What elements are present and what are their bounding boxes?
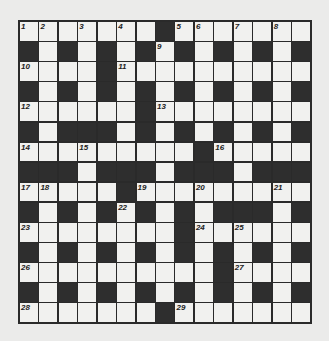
answer-cell[interactable]: 15 [78, 143, 96, 162]
answer-cell[interactable]: 27 [234, 263, 252, 282]
answer-cell[interactable] [39, 102, 57, 121]
answer-cell[interactable]: 29 [175, 303, 193, 322]
answer-cell[interactable] [273, 82, 291, 101]
answer-cell[interactable] [175, 143, 193, 162]
answer-cell[interactable] [292, 102, 310, 121]
answer-cell[interactable] [273, 263, 291, 282]
answer-cell[interactable] [292, 62, 310, 81]
answer-cell[interactable]: 21 [273, 183, 291, 202]
answer-cell[interactable] [175, 183, 193, 202]
answer-cell[interactable]: 3 [78, 22, 96, 41]
answer-cell[interactable]: 17 [20, 183, 38, 202]
answer-cell[interactable] [273, 243, 291, 262]
answer-cell[interactable] [137, 223, 155, 242]
answer-cell[interactable] [175, 102, 193, 121]
answer-cell[interactable] [117, 123, 135, 142]
answer-cell[interactable] [137, 263, 155, 282]
answer-cell[interactable] [195, 42, 213, 61]
answer-cell[interactable] [273, 283, 291, 302]
answer-cell[interactable] [195, 263, 213, 282]
answer-cell[interactable] [253, 143, 271, 162]
answer-cell[interactable]: 5 [175, 22, 193, 41]
answer-cell[interactable] [59, 102, 77, 121]
answer-cell[interactable] [234, 303, 252, 322]
answer-cell[interactable] [253, 223, 271, 242]
answer-cell[interactable] [214, 183, 232, 202]
answer-cell[interactable] [214, 303, 232, 322]
answer-cell[interactable] [39, 143, 57, 162]
answer-cell[interactable] [98, 263, 116, 282]
answer-cell[interactable] [78, 223, 96, 242]
answer-cell[interactable]: 25 [234, 223, 252, 242]
answer-cell[interactable] [156, 223, 174, 242]
answer-cell[interactable] [59, 143, 77, 162]
answer-cell[interactable] [98, 102, 116, 121]
answer-cell[interactable] [98, 22, 116, 41]
answer-cell[interactable] [195, 102, 213, 121]
answer-cell[interactable] [117, 303, 135, 322]
answer-cell[interactable] [117, 283, 135, 302]
answer-cell[interactable] [137, 143, 155, 162]
answer-cell[interactable] [137, 303, 155, 322]
answer-cell[interactable] [195, 243, 213, 262]
answer-cell[interactable] [253, 303, 271, 322]
answer-cell[interactable] [59, 223, 77, 242]
answer-cell[interactable]: 22 [117, 203, 135, 222]
answer-cell[interactable]: 1 [20, 22, 38, 41]
answer-cell[interactable] [234, 102, 252, 121]
answer-cell[interactable] [253, 62, 271, 81]
answer-cell[interactable] [78, 303, 96, 322]
answer-cell[interactable]: 6 [195, 22, 213, 41]
answer-cell[interactable] [59, 263, 77, 282]
answer-cell[interactable] [39, 203, 57, 222]
answer-cell[interactable] [78, 42, 96, 61]
answer-cell[interactable] [117, 263, 135, 282]
answer-cell[interactable] [292, 183, 310, 202]
answer-cell[interactable] [78, 203, 96, 222]
answer-cell[interactable] [98, 183, 116, 202]
answer-cell[interactable] [156, 82, 174, 101]
answer-cell[interactable] [117, 143, 135, 162]
answer-cell[interactable] [39, 263, 57, 282]
answer-cell[interactable] [137, 62, 155, 81]
answer-cell[interactable]: 16 [214, 143, 232, 162]
answer-cell[interactable] [98, 223, 116, 242]
answer-cell[interactable] [156, 163, 174, 182]
answer-cell[interactable] [39, 42, 57, 61]
answer-cell[interactable] [195, 82, 213, 101]
answer-cell[interactable] [39, 223, 57, 242]
answer-cell[interactable]: 26 [20, 263, 38, 282]
answer-cell[interactable]: 28 [20, 303, 38, 322]
answer-cell[interactable] [253, 263, 271, 282]
answer-cell[interactable] [78, 62, 96, 81]
answer-cell[interactable] [156, 62, 174, 81]
answer-cell[interactable] [214, 62, 232, 81]
answer-cell[interactable] [117, 223, 135, 242]
answer-cell[interactable] [273, 223, 291, 242]
answer-cell[interactable] [117, 82, 135, 101]
answer-cell[interactable]: 10 [20, 62, 38, 81]
answer-cell[interactable] [214, 22, 232, 41]
answer-cell[interactable]: 2 [39, 22, 57, 41]
answer-cell[interactable] [253, 102, 271, 121]
answer-cell[interactable] [175, 263, 193, 282]
answer-cell[interactable]: 18 [39, 183, 57, 202]
answer-cell[interactable]: 4 [117, 22, 135, 41]
answer-cell[interactable] [59, 183, 77, 202]
answer-cell[interactable] [292, 263, 310, 282]
answer-cell[interactable] [59, 62, 77, 81]
answer-cell[interactable]: 12 [20, 102, 38, 121]
answer-cell[interactable] [253, 22, 271, 41]
answer-cell[interactable] [195, 123, 213, 142]
answer-cell[interactable] [273, 62, 291, 81]
answer-cell[interactable] [78, 243, 96, 262]
answer-cell[interactable] [59, 303, 77, 322]
answer-cell[interactable] [156, 183, 174, 202]
answer-cell[interactable]: 11 [117, 62, 135, 81]
answer-cell[interactable] [273, 102, 291, 121]
answer-cell[interactable] [273, 42, 291, 61]
answer-cell[interactable] [78, 263, 96, 282]
answer-cell[interactable]: 14 [20, 143, 38, 162]
answer-cell[interactable] [39, 303, 57, 322]
answer-cell[interactable] [39, 62, 57, 81]
